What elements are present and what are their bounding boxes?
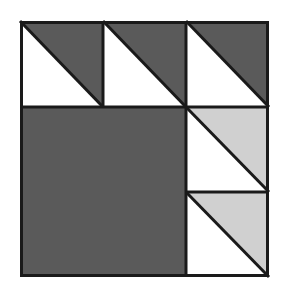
unit-top-left-hst [20, 21, 103, 107]
unit-top-right-hst [186, 21, 269, 107]
large-dark-square-fill [20, 107, 186, 277]
unit-large-dark-square [20, 107, 186, 277]
unit-top-center-hst [103, 21, 186, 107]
quilt-block-canvas [0, 0, 281, 299]
unit-bottom-right-hst [186, 192, 269, 277]
unit-middle-right-hst [186, 107, 269, 192]
quilt-block-figure: Quilt Block Pattern [0, 0, 281, 299]
